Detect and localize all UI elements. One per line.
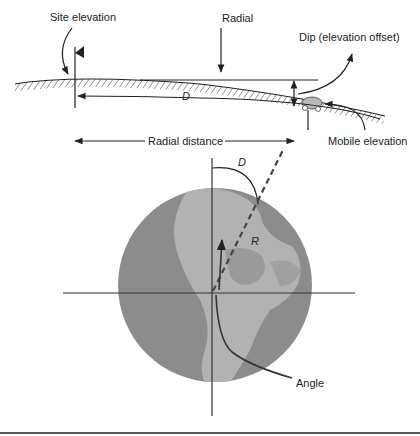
radial-label: Radial bbox=[222, 12, 253, 24]
ground-hatching bbox=[15, 79, 385, 124]
elevation-radial-diagram: Site elevation Radial Dip (elevation off… bbox=[0, 0, 420, 436]
mobile-elevation-label: Mobile elevation bbox=[328, 135, 408, 147]
azimuth-d-label: D bbox=[238, 156, 246, 168]
radius-r-label: R bbox=[251, 235, 259, 247]
dip-label: Dip (elevation offset) bbox=[299, 31, 400, 43]
radial-distance-label: Radial distance bbox=[148, 135, 223, 147]
dip-arrow bbox=[298, 54, 352, 94]
globe-panel: D R Angle bbox=[63, 150, 355, 416]
site-elevation-arrow bbox=[62, 28, 72, 74]
site-elevation-label: Site elevation bbox=[50, 11, 116, 23]
distance-d-label: D bbox=[182, 90, 190, 102]
angle-label: Angle bbox=[296, 377, 324, 389]
terrain-profile-panel: Site elevation Radial Dip (elevation off… bbox=[15, 11, 408, 147]
site-flag-icon bbox=[75, 46, 84, 58]
